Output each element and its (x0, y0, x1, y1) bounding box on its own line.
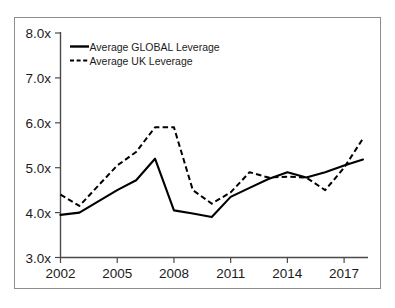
leverage-line-chart: 3.0x4.0x5.0x6.0x7.0x8.0x 200220052008201… (0, 0, 395, 308)
x-tick-label: 2014 (272, 266, 303, 281)
data-series-group (61, 127, 364, 217)
series-line-average-global-leverage (61, 159, 364, 217)
x-tick-label: 2011 (216, 266, 245, 281)
series-line-average-uk-leverage (61, 127, 364, 206)
x-tick-labels: 200220052008201120142017 (45, 266, 359, 281)
x-tick-group (61, 258, 345, 264)
x-tick-label: 2017 (329, 266, 359, 281)
y-tick-group (55, 33, 61, 258)
x-tick-label: 2005 (102, 266, 132, 281)
chart-figure: 3.0x4.0x5.0x6.0x7.0x8.0x 200220052008201… (0, 0, 395, 308)
y-tick-label: 3.0x (25, 251, 51, 266)
legend-label-global: Average GLOBAL Leverage (90, 41, 220, 53)
y-axis (55, 32, 61, 258)
y-tick-labels: 3.0x4.0x5.0x6.0x7.0x8.0x (25, 26, 51, 266)
y-tick-label: 5.0x (25, 161, 51, 176)
legend-label-uk: Average UK Leverage (90, 55, 193, 67)
x-tick-label: 2002 (45, 266, 75, 281)
x-axis (61, 258, 369, 264)
chart-legend: Average GLOBAL Leverage Average UK Lever… (70, 41, 220, 67)
y-tick-label: 4.0x (25, 206, 51, 221)
x-tick-label: 2008 (159, 266, 189, 281)
y-tick-label: 7.0x (25, 71, 51, 86)
y-tick-label: 6.0x (25, 116, 51, 131)
y-tick-label: 8.0x (25, 26, 51, 41)
